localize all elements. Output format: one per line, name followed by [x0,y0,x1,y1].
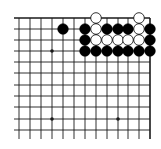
black-stone [91,46,102,57]
white-stone [134,13,145,24]
black-stone [102,46,113,57]
white-stone [91,35,102,46]
star-point [50,49,54,53]
star-point [116,117,120,121]
white-stone [123,35,134,46]
black-stone [58,24,69,35]
go-board [0,0,161,149]
black-stone [80,35,91,46]
white-stone [91,24,102,35]
star-point [50,117,54,121]
black-stone [145,46,156,57]
black-stone [80,46,91,57]
black-stone [113,24,124,35]
white-stone [91,13,102,24]
black-stone [123,46,134,57]
black-stone [102,24,113,35]
black-stone [123,24,134,35]
white-stone [102,35,113,46]
black-stone [145,24,156,35]
white-stone [113,35,124,46]
white-stone [134,35,145,46]
stones [58,13,156,57]
black-stone [113,46,124,57]
black-stone [145,35,156,46]
white-stone [134,24,145,35]
black-stone [134,46,145,57]
black-stone [80,24,91,35]
